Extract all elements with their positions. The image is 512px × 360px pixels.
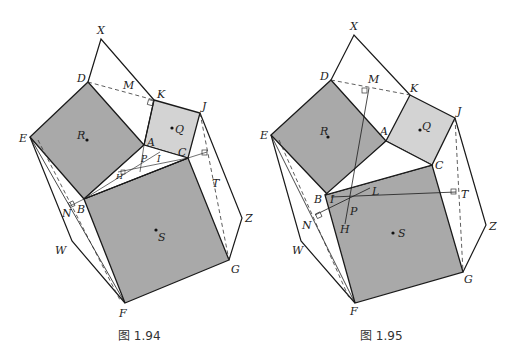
label-c: C: [435, 159, 444, 172]
label-a: A: [146, 136, 155, 149]
label-w: W: [292, 244, 305, 257]
label-k: K: [409, 82, 419, 95]
figure-1-94: X D M K J E R Q A C P I H N B T Z W S G …: [18, 24, 253, 343]
label-i: I: [329, 193, 335, 206]
diagram-canvas: X D M K J E R Q A C P I H N B T Z W S G …: [0, 0, 512, 360]
label-e: E: [18, 132, 27, 145]
label-n: N: [301, 219, 312, 232]
label-q: Q: [422, 120, 431, 133]
label-r: R: [319, 125, 328, 138]
right-angle-m: [362, 88, 367, 93]
label-n: N: [61, 207, 72, 220]
edge-dxk: [331, 35, 410, 95]
label-a: A: [379, 125, 388, 138]
label-w: W: [55, 244, 68, 257]
label-h: H: [339, 223, 350, 236]
label-f: F: [349, 305, 358, 318]
figure-caption-1-95: 图 1.95: [360, 329, 403, 343]
label-t: T: [212, 177, 221, 190]
label-j: J: [200, 100, 207, 113]
label-t: T: [461, 188, 470, 201]
label-p: P: [140, 154, 148, 164]
label-e: E: [259, 129, 268, 142]
label-s: S: [398, 227, 406, 240]
label-m: M: [122, 79, 135, 92]
center-q-dot: [170, 126, 173, 129]
edge-dxk: [88, 39, 154, 100]
label-f: F: [118, 307, 127, 320]
label-z: Z: [244, 212, 253, 225]
label-x: X: [349, 20, 359, 33]
label-p: P: [349, 205, 358, 218]
label-b: B: [313, 193, 322, 206]
label-k: K: [156, 88, 166, 101]
edge-jzg: [455, 118, 486, 272]
label-j: J: [455, 105, 462, 118]
label-g: G: [231, 263, 240, 276]
center-r-dot: [85, 138, 88, 141]
right-angle-t: [451, 189, 456, 194]
label-g: G: [464, 273, 473, 286]
label-x: X: [96, 24, 106, 37]
center-s-dot: [391, 231, 394, 234]
label-s: S: [158, 231, 166, 244]
label-m: M: [367, 73, 380, 86]
label-q: Q: [175, 123, 184, 136]
label-d: D: [319, 70, 329, 83]
figure-caption-1-94: 图 1.94: [118, 329, 161, 343]
label-i: I: [156, 154, 161, 164]
label-r: R: [76, 129, 85, 142]
right-angle-k: [147, 100, 153, 106]
label-l: L: [371, 185, 379, 198]
label-h: H: [115, 172, 124, 181]
label-b: B: [76, 203, 85, 216]
label-z: Z: [488, 220, 497, 233]
figure-1-95: X D M K J E R Q A C B I L P T N H Z W S …: [259, 20, 497, 343]
label-c: C: [178, 146, 187, 159]
label-d: D: [76, 72, 86, 85]
